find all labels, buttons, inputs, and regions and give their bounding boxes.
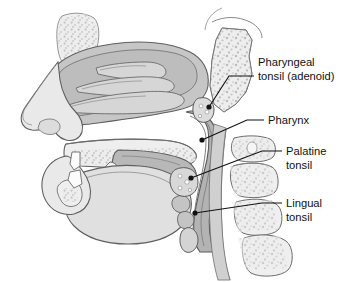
label-lingual-tonsil-line1: Lingual xyxy=(286,197,322,209)
anatomy-figure: Pharyngeal tonsil (adenoid) Pharynx Pala… xyxy=(0,0,353,282)
palatine-tonsil xyxy=(170,168,198,197)
label-palatine-tonsil-line2: tonsil xyxy=(286,159,312,171)
leader-dot-lingual-tonsil xyxy=(192,210,197,215)
label-palatine-tonsil-line1: Palatine xyxy=(286,145,326,157)
label-lingual-tonsil-line2: tonsil xyxy=(286,211,312,223)
anatomy-illustration: Pharyngeal tonsil (adenoid) Pharynx Pala… xyxy=(0,0,353,282)
leader-dot-palatine-tonsil xyxy=(188,175,193,180)
pharyngeal-tonsil xyxy=(193,98,214,123)
label-pharyngeal-tonsil-line2: tonsil (adenoid) xyxy=(258,70,335,82)
leader-dot-pharyngeal-tonsil xyxy=(206,104,211,109)
label-pharyngeal-tonsil-line1: Pharyngeal xyxy=(258,56,315,68)
epiglottis xyxy=(180,228,198,253)
leader-dot-pharynx xyxy=(199,137,204,142)
label-pharynx-line1: Pharynx xyxy=(268,114,309,126)
